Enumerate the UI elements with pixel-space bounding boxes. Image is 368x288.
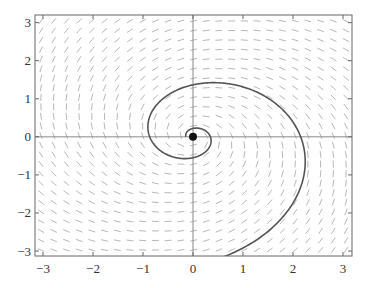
field-segment <box>165 163 172 165</box>
field-segment <box>343 85 348 90</box>
field-segment <box>256 161 258 168</box>
field-segment <box>343 76 348 80</box>
field-segment <box>39 18 43 24</box>
field-segment <box>152 163 158 166</box>
field-segment <box>152 20 158 23</box>
field-segment <box>103 132 105 139</box>
field-segment <box>127 57 132 62</box>
field-segment <box>165 58 171 61</box>
field-segment <box>292 77 298 80</box>
field-segment <box>344 228 347 234</box>
field-segment <box>292 48 299 50</box>
field-segment <box>38 190 43 195</box>
field-segment <box>127 48 133 52</box>
field-segment <box>51 220 57 223</box>
field-segment <box>51 171 56 176</box>
field-segment <box>178 105 184 108</box>
field-segment <box>102 38 107 43</box>
field-segment <box>307 189 310 196</box>
field-segment <box>139 182 146 184</box>
field-segment <box>241 239 247 242</box>
field-segment <box>117 122 118 129</box>
field-segment <box>177 221 184 222</box>
field-segment <box>254 30 261 31</box>
field-segment <box>128 85 132 91</box>
field-segment <box>254 105 260 109</box>
field-segment <box>165 77 171 80</box>
field-segment <box>50 249 57 252</box>
field-segment <box>203 162 209 165</box>
field-segment <box>76 230 83 232</box>
field-segment <box>177 211 184 212</box>
field-segment <box>256 132 259 138</box>
field-segment <box>104 103 105 110</box>
field-segment <box>89 162 94 167</box>
field-segment <box>76 249 83 251</box>
field-segment <box>230 161 234 167</box>
field-segment <box>282 161 283 168</box>
field-segment <box>115 57 120 62</box>
x-tick-label: 2 <box>290 261 297 276</box>
field-segment <box>331 114 335 120</box>
field-segment <box>254 96 260 99</box>
field-segment <box>53 94 54 101</box>
field-segment <box>216 172 222 176</box>
field-segment <box>91 123 92 130</box>
field-segment <box>63 210 69 213</box>
field-segment <box>255 180 259 186</box>
field-segment <box>332 218 335 224</box>
field-segment <box>166 114 170 120</box>
field-segment <box>78 123 79 130</box>
field-segment <box>102 47 107 52</box>
field-segment <box>243 132 246 138</box>
field-segment <box>254 40 261 41</box>
field-segment <box>241 49 248 50</box>
field-segment <box>52 37 56 43</box>
field-segment <box>305 29 312 31</box>
field-segment <box>215 97 222 98</box>
field-segment <box>203 59 210 60</box>
field-segment <box>305 95 310 100</box>
field-segment <box>78 75 81 81</box>
field-segment <box>41 113 42 120</box>
field-segment <box>215 30 222 31</box>
field-segment <box>128 142 132 148</box>
field-segment <box>64 161 68 166</box>
field-segment <box>216 239 223 242</box>
field-segment <box>307 170 308 177</box>
field-segment <box>103 94 105 101</box>
field-segment <box>292 67 298 70</box>
field-segment <box>330 29 336 32</box>
field-segment <box>203 116 210 117</box>
field-segment <box>216 191 222 194</box>
field-segment <box>65 66 68 72</box>
field-segment <box>114 230 121 231</box>
field-segment <box>254 58 261 59</box>
field-segment <box>255 171 258 177</box>
y-tick-label: −3 <box>17 244 31 259</box>
y-tick-label: −2 <box>17 205 31 220</box>
field-segment <box>140 29 146 32</box>
field-segment <box>177 68 184 70</box>
field-segment <box>78 132 80 139</box>
field-segment <box>242 114 247 118</box>
field-segment <box>267 114 272 119</box>
field-segment <box>305 247 310 252</box>
field-segment <box>345 142 347 149</box>
field-segment <box>177 30 184 32</box>
field-segment <box>127 211 134 213</box>
field-segment <box>279 20 286 21</box>
field-segment <box>91 94 93 101</box>
field-segment <box>78 94 79 101</box>
field-segment <box>139 192 146 194</box>
field-segment <box>102 172 108 176</box>
field-segment <box>266 21 273 22</box>
field-segment <box>229 210 235 214</box>
field-segment <box>242 210 248 214</box>
field-segment <box>330 57 336 61</box>
field-segment <box>292 20 299 22</box>
field-segment <box>152 173 159 175</box>
field-segment <box>305 67 311 70</box>
field-segment <box>140 85 145 90</box>
field-segment <box>102 162 107 167</box>
